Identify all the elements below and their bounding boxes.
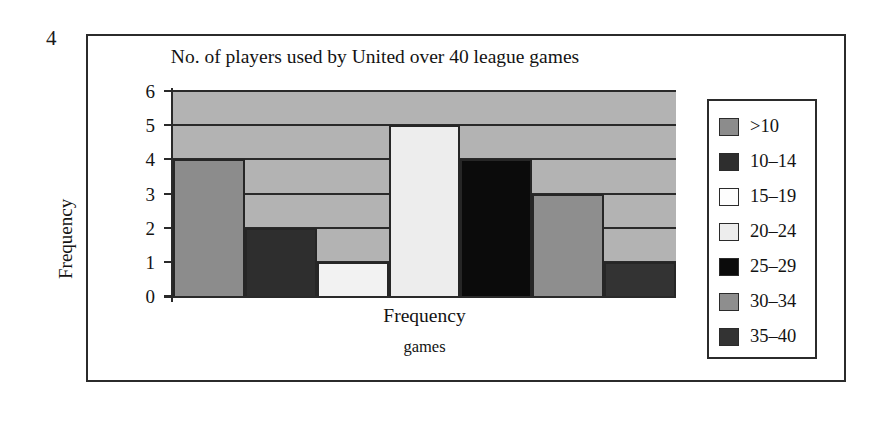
legend-swatch-icon [719, 153, 739, 171]
y-axis-tick-label: 4 [133, 150, 155, 169]
bar-slot[interactable] [389, 91, 461, 296]
legend-swatch-icon [719, 258, 739, 276]
legend-label: 25–29 [750, 256, 796, 277]
legend-label: 35–40 [750, 326, 796, 347]
bar-slot[interactable] [173, 91, 245, 296]
legend-item[interactable]: 20–24 [719, 214, 815, 249]
bar[interactable] [532, 194, 604, 297]
figure-number: 4 [46, 26, 57, 51]
y-axis-tick [164, 227, 173, 229]
x-axis-line [164, 296, 676, 298]
bar-slot[interactable] [532, 91, 604, 296]
legend-item[interactable]: 30–34 [719, 284, 815, 319]
y-axis-tick [164, 124, 173, 126]
y-axis-tick-label: 0 [133, 287, 155, 306]
x-axis-subtitle: games [173, 337, 676, 357]
plot-area: 0123456 Frequency [173, 91, 676, 296]
legend-swatch-icon [719, 328, 739, 346]
bar-series [173, 91, 676, 296]
x-axis-title: Frequency [173, 305, 676, 327]
y-axis-tick [164, 193, 173, 195]
y-axis-tick-label: 1 [133, 253, 155, 272]
bar[interactable] [173, 159, 245, 296]
y-axis-line [171, 88, 173, 302]
legend-item[interactable]: 10–14 [719, 144, 815, 179]
legend-swatch-icon [719, 223, 739, 241]
y-axis-title: Frequency [55, 199, 77, 279]
y-axis-tick [164, 295, 173, 297]
y-axis-tick [164, 261, 173, 263]
legend-item[interactable]: 25–29 [719, 249, 815, 284]
legend: >1010–1415–1920–2425–2930–3435–40 [707, 99, 817, 359]
bar[interactable] [604, 262, 676, 296]
bar[interactable] [317, 262, 389, 296]
bar[interactable] [245, 228, 317, 296]
bar-slot[interactable] [460, 91, 532, 296]
legend-swatch-icon [719, 293, 739, 311]
bar-slot[interactable] [245, 91, 317, 296]
y-axis-tick [164, 158, 173, 160]
y-axis-tick-label: 6 [133, 82, 155, 101]
bar[interactable] [389, 125, 461, 296]
legend-swatch-icon [719, 188, 739, 206]
bar-slot[interactable] [317, 91, 389, 296]
legend-label: 10–14 [750, 151, 796, 172]
bar-slot[interactable] [604, 91, 676, 296]
legend-label: 20–24 [750, 221, 796, 242]
legend-item[interactable]: >10 [719, 109, 815, 144]
legend-item[interactable]: 15–19 [719, 179, 815, 214]
legend-label: 30–34 [750, 291, 796, 312]
y-axis-tick-label: 5 [133, 116, 155, 135]
legend-label: >10 [750, 116, 779, 137]
chart-title: No. of players used by United over 40 le… [110, 46, 640, 68]
legend-swatch-icon [719, 118, 739, 136]
y-axis-tick-label: 3 [133, 185, 155, 204]
y-axis-tick-label: 2 [133, 219, 155, 238]
legend-item[interactable]: 35–40 [719, 319, 815, 354]
bar[interactable] [460, 159, 532, 296]
legend-label: 15–19 [750, 186, 796, 207]
y-axis-tick [164, 90, 173, 92]
figure-root: 4 No. of players used by United over 40 … [0, 0, 895, 425]
